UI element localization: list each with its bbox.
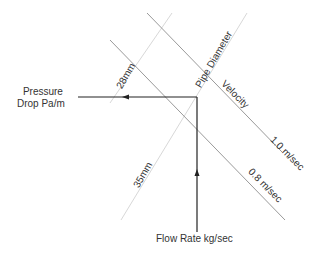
pressure-drop-label: Pressure Drop Pa/m [21, 86, 65, 110]
pressure-label-line1: Pressure [21, 86, 65, 98]
diameter-line-28mm [110, 13, 172, 103]
up-arrow-icon [195, 169, 200, 176]
velocity-line-1-0 [147, 13, 282, 152]
nomogram-canvas [0, 0, 320, 256]
left-arrow-icon [122, 95, 129, 100]
pressure-label-line2: Drop Pa/m [17, 98, 65, 110]
flow-rate-label: Flow Rate kg/sec [156, 233, 233, 244]
